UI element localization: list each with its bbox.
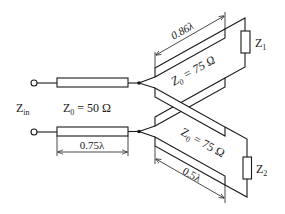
input-terminal-top <box>31 80 37 86</box>
upper-length-label: 0.86λ <box>169 19 196 41</box>
input-impedance-label: Zin <box>16 101 30 117</box>
input-terminals <box>31 80 57 135</box>
load-z1-label: Z1 <box>255 36 266 52</box>
feed-impedance-label: Z0 = 50 Ω <box>63 101 111 117</box>
load-resistor-z2 <box>243 157 252 179</box>
fork-wires <box>139 77 155 137</box>
input-terminal-bottom <box>31 129 37 135</box>
load-z2-label: Z2 <box>256 162 267 178</box>
feed-line-bottom-conductor <box>57 127 128 136</box>
feed-line-top-conductor <box>57 78 128 87</box>
load-resistor-z1 <box>241 31 250 53</box>
circuit-diagram: Zin Z0 = 50 Ω 0.75λ 0.86λ Z0 = 75 Ω Z0 =… <box>0 0 285 214</box>
feed-length-label: 0.75λ <box>80 139 105 151</box>
